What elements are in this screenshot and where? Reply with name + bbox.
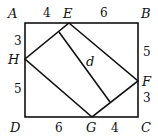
label-F: F	[141, 74, 152, 89]
length-DG: 6	[55, 121, 63, 135]
label-H: H	[7, 52, 20, 67]
label-A: A	[7, 6, 17, 21]
label-B: B	[140, 6, 151, 21]
label-d: d	[86, 54, 94, 69]
label-G: G	[86, 120, 96, 135]
length-AE: 4	[43, 6, 51, 20]
length-EB: 6	[100, 6, 108, 20]
geometry-diagram: A B C D E F G H 4 6 3 5 5 3 6 4 d	[0, 0, 158, 139]
label-C: C	[141, 120, 151, 135]
label-E: E	[62, 6, 73, 21]
length-HD: 5	[14, 82, 22, 96]
segment-d	[59, 32, 110, 102]
length-GC: 4	[111, 121, 119, 135]
label-D: D	[9, 120, 21, 135]
inner-quadrilateral-EFGH	[25, 23, 138, 117]
outer-rectangle-ABCD	[25, 23, 138, 117]
length-FC: 3	[143, 91, 151, 105]
length-BF: 5	[143, 45, 151, 59]
length-AH: 3	[14, 34, 22, 48]
